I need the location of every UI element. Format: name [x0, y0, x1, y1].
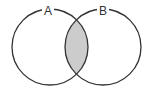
set-a-label: A [42, 5, 54, 17]
set-b-label: B [97, 5, 109, 17]
venn-diagram [0, 0, 152, 94]
